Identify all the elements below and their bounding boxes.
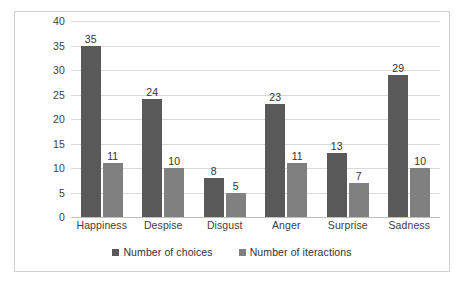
plot-region: 0510152025303540 351124108523111372910 — [43, 21, 440, 217]
legend-swatch-icon — [112, 249, 119, 256]
chart-legend: Number of choicesNumber of iteractions — [15, 246, 449, 258]
legend-label: Number of iteractions — [250, 246, 352, 258]
bar[interactable] — [327, 153, 347, 217]
y-axis-tick-label: 15 — [53, 138, 65, 150]
bar-value-label: 35 — [85, 33, 97, 45]
bar[interactable] — [287, 163, 307, 217]
x-axis-tick-label: Anger — [256, 219, 318, 239]
bar-group: 2311 — [256, 21, 318, 217]
bar-value-label: 5 — [233, 180, 239, 192]
legend-item[interactable]: Number of choices — [112, 246, 212, 258]
y-axis: 0510152025303540 — [43, 21, 65, 217]
bar-group: 2410 — [133, 21, 195, 217]
bar-value-label: 23 — [269, 91, 281, 103]
bar-value-label: 8 — [211, 165, 217, 177]
bar-group: 3511 — [71, 21, 133, 217]
bar-value-label: 10 — [414, 155, 426, 167]
bars-layer: 351124108523111372910 — [71, 21, 440, 217]
y-axis-tick-label: 20 — [53, 113, 65, 125]
x-axis-tick-label: Happiness — [71, 219, 133, 239]
x-axis-tick-label: Disgust — [194, 219, 256, 239]
bar[interactable] — [349, 183, 369, 217]
bar-slot: 7 — [349, 21, 369, 217]
bar-slot: 10 — [410, 21, 430, 217]
x-axis-tick-label: Surprise — [317, 219, 379, 239]
bar-slot: 13 — [327, 21, 347, 217]
y-axis-tick-label: 35 — [53, 40, 65, 52]
bar-value-label: 24 — [146, 86, 158, 98]
bar[interactable] — [142, 99, 162, 217]
bar[interactable] — [81, 46, 101, 218]
bar[interactable] — [265, 104, 285, 217]
bar[interactable] — [164, 168, 184, 217]
bar-group: 2910 — [379, 21, 441, 217]
legend-item[interactable]: Number of iteractions — [239, 246, 352, 258]
x-axis-tick-label: Despise — [133, 219, 195, 239]
bar-slot: 24 — [142, 21, 162, 217]
bar-slot: 5 — [226, 21, 246, 217]
legend-swatch-icon — [239, 249, 246, 256]
bar[interactable] — [204, 178, 224, 217]
bar[interactable] — [103, 163, 123, 217]
y-axis-tick-label: 25 — [53, 89, 65, 101]
bar-slot: 11 — [103, 21, 123, 217]
y-axis-tick-label: 30 — [53, 64, 65, 76]
plot-canvas: 351124108523111372910 — [71, 21, 440, 217]
bar[interactable] — [226, 193, 246, 218]
y-axis-tick-label: 5 — [59, 187, 65, 199]
bar-value-label: 29 — [392, 62, 404, 74]
bar[interactable] — [388, 75, 408, 217]
y-axis-tick-label: 40 — [53, 15, 65, 27]
bar[interactable] — [410, 168, 430, 217]
x-axis-tick-label: Sadness — [379, 219, 441, 239]
bar-value-label: 11 — [107, 150, 118, 162]
y-axis-tick-label: 0 — [59, 211, 65, 223]
chart-container: 0510152025303540 351124108523111372910 H… — [14, 11, 450, 272]
x-axis: HappinessDespiseDisgustAngerSurpriseSadn… — [71, 219, 440, 239]
bar-slot: 8 — [204, 21, 224, 217]
bar-value-label: 10 — [168, 155, 180, 167]
bar-value-label: 11 — [292, 150, 303, 162]
bar-slot: 35 — [81, 21, 101, 217]
bar-slot: 10 — [164, 21, 184, 217]
x-axis-line — [71, 217, 440, 218]
bar-slot: 11 — [287, 21, 307, 217]
bar-value-label: 7 — [356, 170, 362, 182]
bar-slot: 23 — [265, 21, 285, 217]
bar-value-label: 13 — [331, 140, 343, 152]
bar-slot: 29 — [388, 21, 408, 217]
legend-label: Number of choices — [123, 246, 212, 258]
y-axis-tick-label: 10 — [53, 162, 65, 174]
bar-group: 137 — [317, 21, 379, 217]
bar-group: 85 — [194, 21, 256, 217]
